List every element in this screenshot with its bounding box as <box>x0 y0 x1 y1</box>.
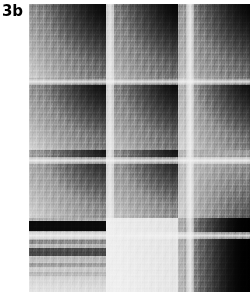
block-corner-shade <box>106 150 178 218</box>
block-corner-shade <box>178 150 250 218</box>
heatmap-block-r1-c2 <box>178 78 250 150</box>
heatmap-block-grid <box>29 4 250 292</box>
block-light-wash <box>29 218 106 292</box>
heatmap-block-r0-c0 <box>29 4 106 78</box>
heatmap-block-r2-c1 <box>106 150 178 218</box>
heatmap-plot-area <box>29 4 250 292</box>
block-corner-shade <box>29 4 106 78</box>
heatmap-block-r1-c1 <box>106 78 178 150</box>
block-corner-shade <box>106 78 178 150</box>
block-corner-shade <box>106 4 178 78</box>
block-corner-shade <box>178 78 250 150</box>
heatmap-block-r2-c2 <box>178 150 250 218</box>
heatmap-block-r3-c0 <box>29 218 106 292</box>
figure-panel: 3b <box>0 0 252 297</box>
heatmap-block-r0-c1 <box>106 4 178 78</box>
block-gradient-top <box>106 218 178 292</box>
block-corner-shade <box>178 4 250 78</box>
block-corner-shade <box>178 218 250 292</box>
block-corner-shade <box>29 150 106 218</box>
heatmap-block-r3-c1 <box>106 218 178 292</box>
heatmap-block-r2-c0 <box>29 150 106 218</box>
heatmap-block-r3-c2 <box>178 218 250 292</box>
heatmap-block-r0-c2 <box>178 4 250 78</box>
block-corner-shade <box>29 78 106 150</box>
heatmap-block-r1-c0 <box>29 78 106 150</box>
panel-label: 3b <box>2 3 23 19</box>
